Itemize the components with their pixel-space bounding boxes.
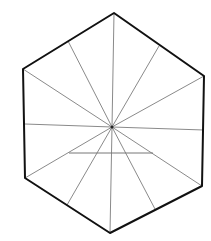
spoke-line-9 <box>25 124 112 127</box>
hexagon-spoke-diagram <box>0 0 211 241</box>
spoke-line-5 <box>112 127 155 209</box>
spoke-line-6 <box>110 127 112 233</box>
spoke-line-7 <box>67 127 112 205</box>
spoke-line-3 <box>112 127 204 130</box>
spoke-line-4 <box>112 127 202 186</box>
spoke-line-0 <box>112 13 114 127</box>
center-point <box>111 126 114 129</box>
spoke-line-2 <box>112 76 204 127</box>
spoke-line-11 <box>68 41 112 127</box>
radial-spokes <box>23 13 204 233</box>
spoke-line-10 <box>23 69 112 127</box>
spoke-line-1 <box>112 46 159 127</box>
